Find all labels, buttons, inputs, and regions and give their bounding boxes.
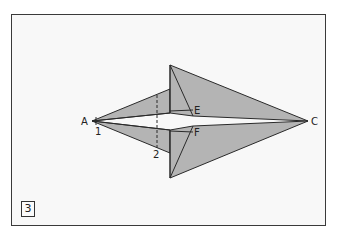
label-fold-2: 2 [153,149,159,160]
label-E: E [194,105,200,116]
label-fold-1: 1 [95,126,101,137]
left-upper-wing [92,89,170,121]
label-F: F [194,127,200,138]
step-number-badge: 3 [21,201,35,217]
origami-fold-diagram: A 1 2 E F C [0,0,338,238]
right-lower-panel [170,121,308,178]
right-upper-panel [170,65,308,121]
label-A: A [81,116,88,127]
label-C: C [311,116,318,127]
